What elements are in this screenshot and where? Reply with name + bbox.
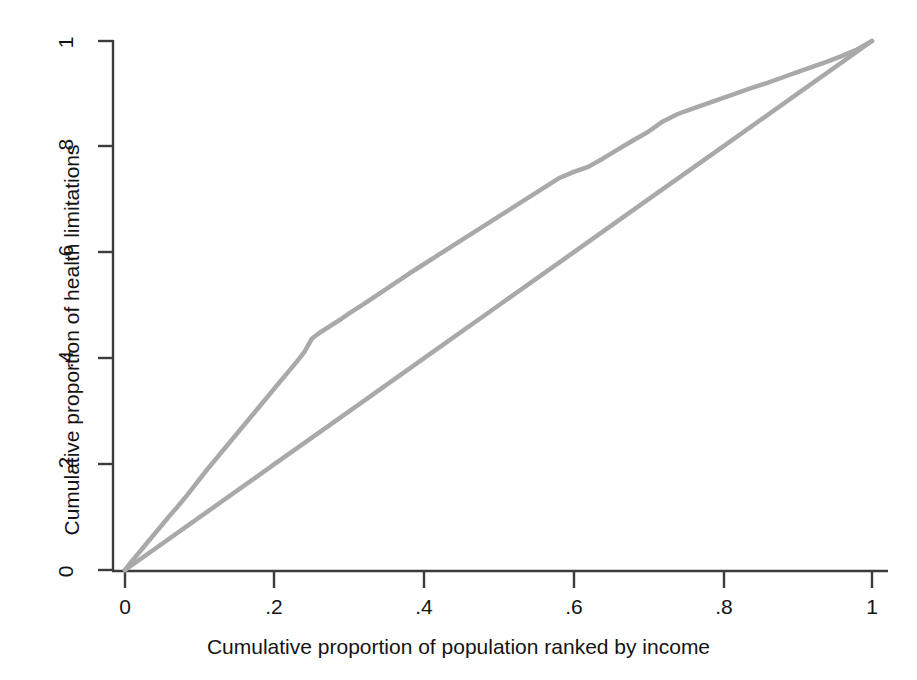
x-axis-title: Cumulative proportion of population rank… (0, 636, 917, 657)
chart-series-group (125, 41, 872, 570)
y-axis-ticks (98, 41, 113, 570)
chart-plot-area (0, 0, 917, 680)
x-tick-label-0: 0 (105, 596, 145, 617)
x-tick-label-5: 1 (852, 596, 892, 617)
chart-figure: 0 .2 .4 .6 .8 1 0 .2 .4 .6 .8 1 Cumulati… (0, 0, 917, 680)
x-tick-label-3: .6 (554, 596, 594, 617)
x-tick-label-4: .8 (704, 596, 744, 617)
x-tick-label-2: .4 (404, 596, 444, 617)
y-tick-label-5: 1 (55, 26, 76, 60)
y-tick-label-0: 0 (55, 555, 76, 589)
x-axis-ticks (125, 571, 872, 588)
y-axis-title: Cumulative proportion of health limitati… (60, 144, 81, 535)
x-tick-label-1: .2 (254, 596, 294, 617)
chart-series-line-of-equality (125, 41, 872, 570)
